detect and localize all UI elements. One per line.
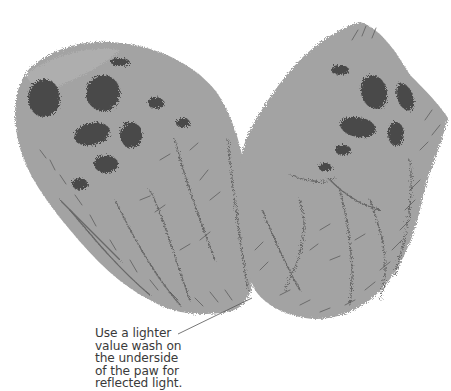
caption-text: Use a lighter value wash on the undersid… bbox=[95, 327, 205, 390]
caption-line-5: reflected light. bbox=[95, 377, 205, 390]
caption-line-1: Use a lighter bbox=[95, 327, 205, 340]
paw-illustration bbox=[0, 0, 451, 391]
caption-line-3: the underside bbox=[95, 352, 205, 365]
